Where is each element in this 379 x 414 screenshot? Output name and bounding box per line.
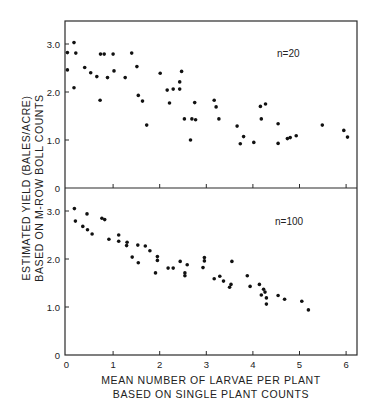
data-point bbox=[260, 117, 264, 121]
data-point bbox=[288, 136, 292, 140]
data-point bbox=[90, 232, 94, 236]
data-point bbox=[74, 51, 78, 55]
scatter-chart: 012345601.02.03.001.02.03.0 n=20 n=100 M… bbox=[0, 0, 379, 414]
y-tick-label-bottom: 0 bbox=[55, 350, 60, 361]
plot-frame bbox=[65, 21, 357, 355]
data-point bbox=[193, 101, 197, 105]
data-point bbox=[178, 87, 182, 91]
data-point bbox=[103, 218, 107, 222]
data-point bbox=[123, 76, 127, 80]
data-point bbox=[230, 260, 234, 264]
x-tick-label: 1 bbox=[110, 359, 115, 370]
data-point bbox=[307, 308, 311, 312]
data-point bbox=[111, 52, 115, 56]
data-point bbox=[98, 98, 102, 102]
data-point bbox=[189, 138, 193, 142]
data-point bbox=[136, 243, 140, 247]
data-point bbox=[212, 277, 216, 281]
data-point bbox=[283, 298, 287, 302]
data-point bbox=[265, 302, 269, 306]
data-point bbox=[246, 274, 250, 278]
data-point bbox=[144, 244, 148, 248]
data-point bbox=[130, 51, 134, 55]
data-point bbox=[258, 283, 262, 287]
data-point bbox=[180, 70, 184, 74]
data-point bbox=[99, 52, 103, 56]
data-point bbox=[239, 142, 243, 146]
data-point bbox=[145, 123, 149, 127]
data-point bbox=[74, 219, 78, 223]
data-point bbox=[218, 275, 222, 279]
data-point bbox=[171, 87, 175, 91]
data-point bbox=[276, 142, 280, 146]
y-tick-label-top: 1.0 bbox=[47, 135, 60, 146]
data-point bbox=[148, 249, 152, 253]
x-tick-label: 2 bbox=[157, 359, 162, 370]
data-point bbox=[183, 117, 187, 121]
x-tick-label: 5 bbox=[297, 359, 302, 370]
data-point bbox=[137, 94, 141, 98]
data-point bbox=[141, 99, 145, 103]
y-tick-label-bottom: 3.0 bbox=[47, 206, 60, 217]
data-point bbox=[66, 51, 70, 55]
data-point bbox=[185, 263, 189, 267]
data-point bbox=[276, 294, 280, 298]
data-point bbox=[73, 207, 77, 211]
data-point bbox=[178, 80, 182, 84]
y-tick-label-top: 0 bbox=[55, 183, 60, 194]
data-point bbox=[81, 225, 85, 229]
data-point bbox=[242, 135, 246, 139]
data-point bbox=[158, 72, 162, 76]
y-tick-label-top: 3.0 bbox=[47, 39, 60, 50]
data-point bbox=[154, 271, 158, 275]
data-point bbox=[66, 68, 70, 72]
y-axis-label: ESTIMATED YIELD (BALES/ACRE) bbox=[20, 95, 32, 280]
data-point bbox=[137, 261, 141, 265]
data-point bbox=[214, 105, 218, 109]
data-point bbox=[102, 52, 106, 56]
data-point bbox=[86, 228, 90, 232]
data-point bbox=[321, 123, 325, 127]
axis-ticks: 012345601.02.03.001.02.03.0 bbox=[47, 39, 349, 371]
x-tick-label: 6 bbox=[343, 359, 348, 370]
data-point bbox=[89, 71, 93, 75]
data-point bbox=[346, 135, 350, 139]
data-point bbox=[156, 259, 160, 263]
data-point bbox=[72, 86, 76, 90]
top-panel-annotation: n=20 bbox=[277, 48, 300, 59]
data-point bbox=[178, 260, 182, 264]
data-point bbox=[72, 41, 76, 45]
data-point bbox=[125, 240, 129, 244]
data-point bbox=[125, 244, 129, 248]
data-point bbox=[228, 286, 232, 290]
data-point bbox=[252, 141, 256, 145]
data-point bbox=[165, 88, 169, 92]
data-point bbox=[235, 124, 239, 128]
data-point bbox=[248, 285, 252, 289]
data-point bbox=[112, 69, 116, 73]
data-point bbox=[260, 293, 264, 297]
data-point bbox=[171, 266, 175, 270]
data-point bbox=[117, 239, 121, 243]
x-tick-label: 3 bbox=[204, 359, 209, 370]
x-tick-label: 0 bbox=[64, 359, 69, 370]
data-point bbox=[264, 102, 268, 106]
data-point bbox=[222, 279, 226, 283]
data-point bbox=[276, 122, 280, 126]
data-point bbox=[130, 255, 134, 259]
data-point bbox=[203, 259, 207, 263]
data-point bbox=[135, 65, 139, 69]
data-point bbox=[183, 274, 187, 278]
data-point bbox=[294, 134, 298, 138]
y-tick-label-bottom: 1.0 bbox=[47, 302, 60, 313]
data-point bbox=[117, 233, 121, 237]
data-point bbox=[342, 129, 346, 133]
data-point bbox=[201, 266, 205, 270]
x-axis-label-line2: BASED ON SINGLE PLANT COUNTS bbox=[113, 388, 309, 400]
bottom-panel-annotation: n=100 bbox=[275, 216, 304, 227]
data-point bbox=[263, 290, 267, 294]
y-tick-label-bottom: 2.0 bbox=[47, 254, 60, 265]
data-point bbox=[107, 238, 111, 242]
data-point bbox=[166, 266, 170, 270]
data-point bbox=[259, 105, 263, 109]
